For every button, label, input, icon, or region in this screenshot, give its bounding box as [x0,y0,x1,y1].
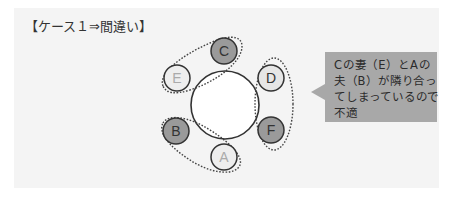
node-label-D: D [266,70,276,86]
node-label-A: A [219,149,229,165]
callout-line-3: てしまっているので [334,89,431,105]
explanation-callout: Cの妻（E）とAの 夫（B）が隣り合っ てしまっているので 不適 [325,52,437,122]
callout-line-4: 不適 [334,105,431,121]
node-label-B: B [171,123,180,139]
callout-line-2: 夫（B）が隣り合っ [334,73,431,89]
node-A: A [211,144,237,170]
node-D: D [258,65,284,91]
node-label-F: F [267,122,276,138]
node-C: C [211,38,237,64]
node-B: B [163,118,189,144]
node-F: F [258,117,284,143]
round-table [191,71,259,139]
callout-pointer [311,84,325,100]
callout-line-1: Cの妻（E）とAの [334,57,431,73]
node-label-C: C [219,43,229,59]
node-label-E: E [172,70,181,86]
node-E: E [164,65,190,91]
